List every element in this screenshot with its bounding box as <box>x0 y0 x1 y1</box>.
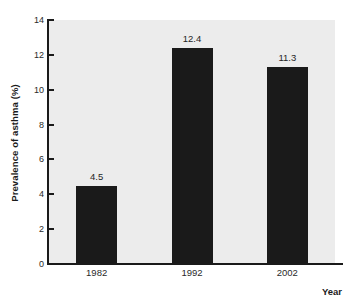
bar <box>76 186 117 264</box>
bars-layer: 4.512.411.3 <box>49 20 335 264</box>
y-axis-tick-label: 2 <box>4 224 44 234</box>
x-axis-tick-labels: 198219922002 <box>0 267 350 283</box>
bar-value-label: 12.4 <box>183 33 202 44</box>
bar-value-label: 4.5 <box>90 171 103 182</box>
y-axis-tick-label: 10 <box>4 85 44 95</box>
y-axis-tick-labels: 02468101214 <box>0 0 44 305</box>
x-axis-tick-label: 1992 <box>181 267 202 278</box>
y-axis-tick-label: 6 <box>4 154 44 164</box>
bar <box>172 48 213 264</box>
y-axis-tick-label: 12 <box>4 50 44 60</box>
x-axis-tick-label: 1982 <box>86 267 107 278</box>
bar-value-label: 11.3 <box>278 52 296 63</box>
y-axis-tick-label: 14 <box>4 15 44 25</box>
bar <box>267 67 308 264</box>
x-axis-title: Year <box>322 286 342 297</box>
y-axis-tick-label: 8 <box>4 120 44 130</box>
x-axis-tick-label: 2002 <box>277 267 298 278</box>
asthma-prevalence-bar-chart: Prevalence of asthma (%) 02468101214 4.5… <box>0 0 350 305</box>
y-axis-tick-label: 4 <box>4 189 44 199</box>
